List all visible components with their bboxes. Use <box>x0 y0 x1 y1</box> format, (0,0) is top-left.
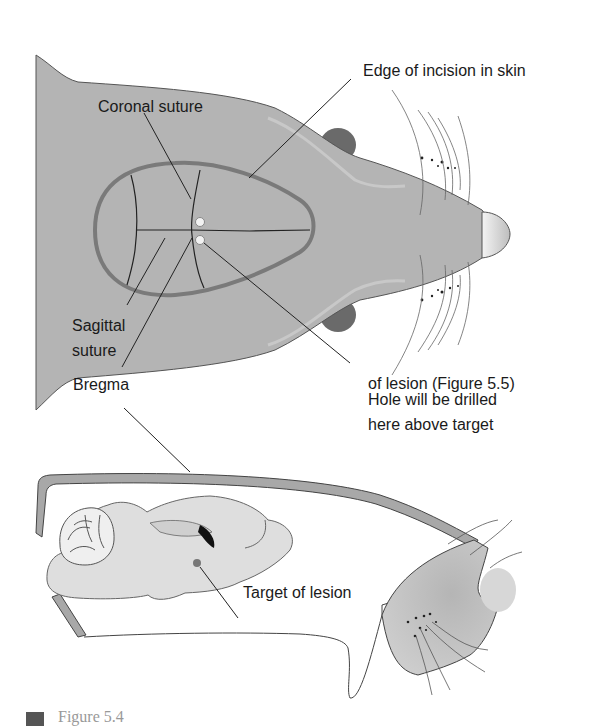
side-view: Target of lesion <box>36 408 522 698</box>
snout-side <box>382 540 498 675</box>
drill-hole-lower <box>196 236 205 245</box>
cerebellum <box>60 508 114 565</box>
label-incision: Edge of incision in skin <box>363 62 526 79</box>
label-hole-line2: here above target <box>368 416 494 433</box>
label-sagittal-suture-line2: suture <box>72 342 117 359</box>
nose-side <box>480 568 516 612</box>
label-coronal-suture: Coronal suture <box>98 98 203 115</box>
jaw-outline <box>84 602 392 698</box>
nose-tip <box>482 212 510 258</box>
lesion-target <box>193 559 201 567</box>
skull-bottom <box>52 594 86 637</box>
label-hole-line1: Hole will be drilled <box>368 391 497 408</box>
drill-hole-upper <box>196 218 205 227</box>
label-hole-line3: of lesion (Figure 5.5) <box>368 375 515 392</box>
top-view: Edge of incision in skin Coronal suture … <box>36 55 526 433</box>
caption-marker-icon <box>26 712 44 726</box>
figure-caption: Figure 5.4 <box>58 708 124 726</box>
label-bregma: Bregma <box>73 376 129 393</box>
label-sagittal-suture-line1: Sagittal <box>72 317 125 334</box>
label-target-of-lesion: Target of lesion <box>243 584 352 601</box>
